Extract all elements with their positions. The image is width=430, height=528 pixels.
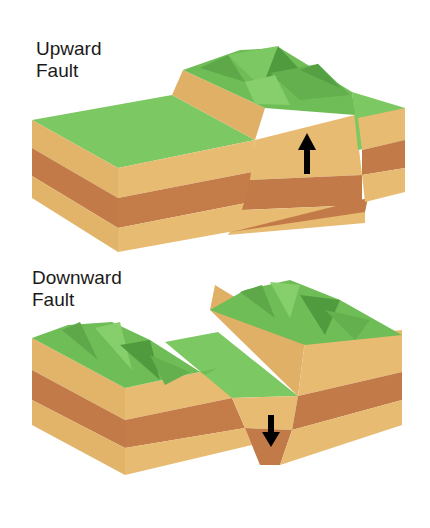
upward-fault-block [32, 46, 405, 252]
fault-diagrams [0, 0, 430, 528]
downward-fault-block [32, 280, 402, 475]
